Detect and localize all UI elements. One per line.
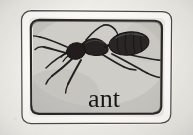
illustration-canvas: ant	[0, 0, 193, 135]
ant-flashcard: ant	[0, 0, 193, 135]
caption: ant	[88, 84, 121, 113]
caption-label: ant	[88, 84, 121, 113]
